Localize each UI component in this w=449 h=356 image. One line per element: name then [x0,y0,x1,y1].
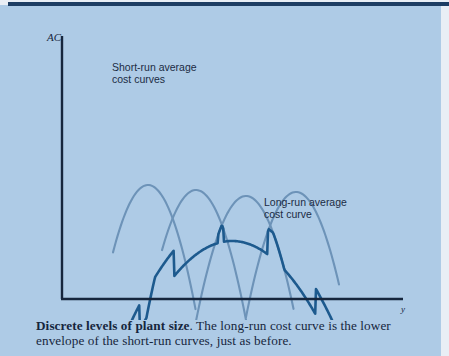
figure-caption: Discrete levels of plant size. The long-… [36,318,396,349]
y-axis-label: AC [46,31,62,43]
annotation-short-run-line1: Short-run average [112,61,197,73]
short-run-curve-1 [113,185,196,309]
cost-curves-svg: AC y Short-run average cost curves Long-… [0,0,449,320]
annotation-long-run: Long-run average cost curve [264,196,347,220]
annotation-long-run-line2: cost curve [264,208,312,220]
figure-root: AC y Short-run average cost curves Long-… [0,0,449,356]
annotation-short-run: Short-run average cost curves [112,61,197,85]
caption-title: Discrete levels of plant size [36,318,190,333]
annotation-short-run-line2: cost curves [112,73,165,85]
annotation-long-run-line1: Long-run average [264,196,347,208]
chart-plot-area: AC y Short-run average cost curves Long-… [0,0,449,320]
x-axis-label: y [400,304,405,314]
